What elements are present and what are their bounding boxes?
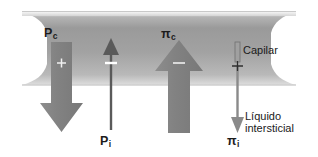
label-pii-subscript: i [237, 139, 239, 149]
label-liquido-line1: Líquido [245, 110, 281, 122]
label-pic-symbol: π [161, 27, 171, 41]
label-pi-symbol: P [100, 134, 108, 148]
label-pic: πc [161, 27, 176, 43]
label-pi-subscript: i [109, 139, 111, 149]
label-liquido-line2: intersticial [245, 122, 294, 134]
label-pc-subscript: c [53, 31, 58, 41]
label-pi: Pi [100, 134, 111, 150]
label-pc-symbol: P [44, 26, 52, 40]
label-capilar: Capilar [243, 44, 278, 56]
label-liquido-intersticial: Líquidointersticial [245, 110, 294, 135]
label-pc: Pc [44, 26, 58, 42]
label-pii-symbol: π [227, 134, 237, 148]
arrow-pii-head [231, 117, 244, 133]
capillary-pressure-diagram: Pc Pi πc πi Capilar Líquidointersticial [0, 0, 318, 157]
capillary-top-highlight [22, 12, 296, 16]
label-pii: πi [227, 134, 239, 150]
label-pic-subscript: c [171, 32, 176, 42]
arrow-pii-cap [235, 42, 240, 62]
